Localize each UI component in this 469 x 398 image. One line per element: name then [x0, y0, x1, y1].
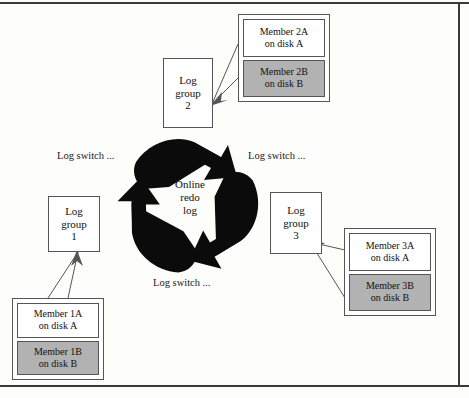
log-group-2-line-2: group — [175, 87, 201, 100]
member-1a-box[interactable]: Member 1A on disk A — [17, 303, 99, 338]
log-group-1-box[interactable]: Log group 1 — [48, 196, 100, 252]
online-redo-log-line-2: redo — [160, 191, 220, 204]
member-2b-box[interactable]: Member 2B on disk B — [243, 60, 325, 98]
member-1b-line-2: on disk B — [39, 358, 77, 370]
log-group-3-line-3: 3 — [293, 229, 299, 242]
log-group-3-line-2: group — [283, 217, 309, 230]
log-switch-right-label: Log switch ... — [248, 150, 305, 161]
page-rule-top — [0, 2, 469, 4]
connector-group-2 — [212, 44, 238, 104]
log-group-3-members: Member 3A on disk A Member 3B on disk B — [344, 228, 436, 316]
log-group-3-box[interactable]: Log group 3 — [270, 192, 322, 254]
connector-group-1 — [48, 252, 78, 298]
log-group-2-box[interactable]: Log group 2 — [163, 58, 213, 128]
log-group-2-line-3: 2 — [185, 99, 191, 112]
member-1a-line-1: Member 1A — [34, 308, 83, 320]
log-group-1-line-3: 1 — [71, 230, 77, 243]
log-switch-left-label: Log switch ... — [57, 150, 114, 161]
log-group-2-members: Member 2A on disk A Member 2B on disk B — [238, 14, 330, 102]
diagram-canvas: Online redo log Log switch ... Log switc… — [0, 0, 469, 398]
member-2a-box[interactable]: Member 2A on disk A — [243, 19, 325, 57]
log-group-1-line-1: Log — [65, 205, 83, 218]
arrowhead-group-1 — [71, 250, 83, 266]
member-3a-box[interactable]: Member 3A on disk A — [349, 233, 431, 271]
page-rule-right — [458, 2, 460, 386]
online-redo-log-line-3: log — [160, 204, 220, 217]
member-2a-line-2: on disk A — [265, 38, 303, 50]
log-group-1-line-2: group — [61, 218, 87, 231]
member-3a-line-2: on disk A — [371, 252, 409, 264]
log-group-2-line-1: Log — [179, 74, 197, 87]
member-2b-line-1: Member 2B — [260, 66, 308, 78]
member-1b-line-1: Member 1B — [34, 346, 82, 358]
member-1b-box[interactable]: Member 1B on disk B — [17, 341, 99, 376]
member-3b-box[interactable]: Member 3B on disk B — [349, 274, 431, 312]
page-rule-bottom — [0, 385, 469, 387]
member-2a-line-1: Member 2A — [260, 26, 309, 38]
log-group-3-line-1: Log — [287, 204, 305, 217]
member-1a-line-2: on disk A — [39, 320, 77, 332]
online-redo-log-label: Online redo log — [160, 178, 220, 218]
online-redo-log-line-1: Online — [160, 178, 220, 191]
log-switch-bottom-label: Log switch ... — [153, 277, 210, 288]
member-2b-line-2: on disk B — [265, 78, 303, 90]
log-group-1-members: Member 1A on disk A Member 1B on disk B — [12, 298, 104, 380]
member-3b-line-1: Member 3B — [366, 280, 414, 292]
member-3b-line-2: on disk B — [371, 292, 409, 304]
member-3a-line-1: Member 3A — [366, 240, 415, 252]
